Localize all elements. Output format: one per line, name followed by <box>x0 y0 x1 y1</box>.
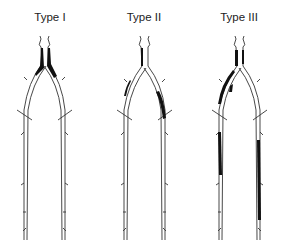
panel-type-2: Type II <box>96 0 192 250</box>
vessel-diagram-type-3 <box>191 0 287 250</box>
panel-type-3: Type III <box>191 0 287 250</box>
panel-type-1: Type I <box>2 0 98 250</box>
vessel-diagram-type-2 <box>96 0 192 250</box>
vessel-diagram-type-1 <box>2 0 98 250</box>
